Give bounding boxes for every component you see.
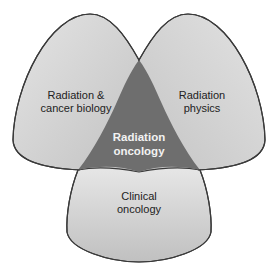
- label-bottom-line2: oncology: [117, 203, 161, 216]
- label-center-line2: oncology: [113, 144, 165, 158]
- label-center-line1: Radiation: [113, 130, 165, 144]
- label-bottom-line1: Clinical: [117, 190, 161, 203]
- label-left-line2: cancer biology: [41, 102, 112, 115]
- label-radiation-physics: Radiation physics: [179, 89, 225, 115]
- label-right-line1: Radiation: [179, 89, 225, 102]
- label-left-line1: Radiation &: [41, 89, 112, 102]
- label-radiation-cancer-biology: Radiation & cancer biology: [41, 89, 112, 115]
- label-right-line2: physics: [179, 102, 225, 115]
- label-radiation-oncology: Radiation oncology: [113, 130, 165, 158]
- label-clinical-oncology: Clinical oncology: [117, 190, 161, 216]
